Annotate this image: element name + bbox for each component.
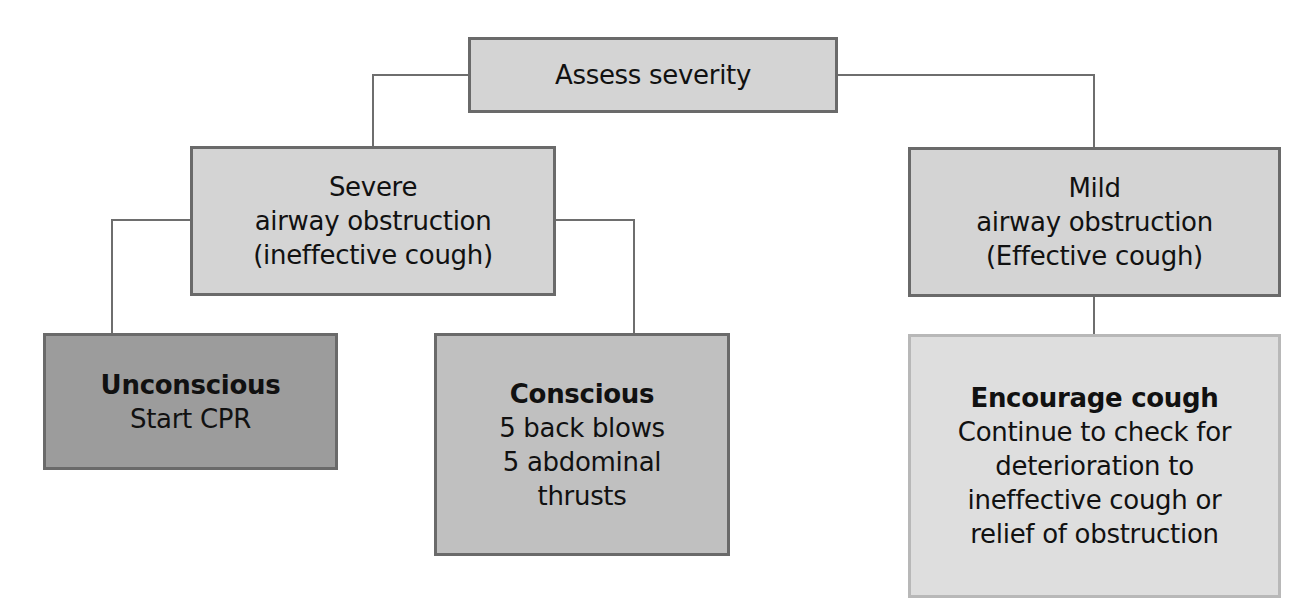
node-encourage-line-4: relief of obstruction <box>970 517 1218 551</box>
node-conscious-title: Conscious <box>510 377 654 411</box>
connector-assess-severe-v <box>372 74 374 148</box>
node-unconscious-title: Unconscious <box>101 368 281 402</box>
node-severe-title: Severe <box>329 170 417 204</box>
node-conscious: Conscious 5 back blows 5 abdominal thrus… <box>434 333 730 556</box>
connector-assess-mild-v <box>1093 74 1095 149</box>
node-severe-line-1: airway obstruction <box>255 204 492 238</box>
node-mild-obstruction: Mild airway obstruction (Effective cough… <box>908 147 1281 297</box>
node-severe-line-2: (ineffective cough) <box>253 238 493 272</box>
node-conscious-line-2: 5 abdominal <box>503 445 662 479</box>
connector-assess-severe-h <box>372 74 469 76</box>
node-encourage-line-1: Continue to check for <box>958 415 1231 449</box>
node-encourage-line-2: deterioration to <box>995 449 1194 483</box>
node-assess-text: Assess severity <box>555 58 751 92</box>
connector-assess-mild-h <box>837 74 1095 76</box>
node-unconscious-line-1: Start CPR <box>130 402 251 436</box>
node-mild-title: Mild <box>1068 171 1120 205</box>
connector-mild-encourage-v <box>1093 295 1095 335</box>
node-severe-obstruction: Severe airway obstruction (ineffective c… <box>190 146 556 296</box>
connector-severe-unconscious-h <box>111 219 192 221</box>
node-unconscious: Unconscious Start CPR <box>43 333 338 470</box>
node-conscious-line-3: thrusts <box>537 479 626 513</box>
node-encourage-line-3: ineffective cough or <box>968 483 1222 517</box>
node-assess-severity: Assess severity <box>468 37 838 113</box>
connector-severe-conscious-h <box>554 219 635 221</box>
node-encourage-title: Encourage cough <box>970 381 1218 415</box>
connector-severe-unconscious-v <box>111 219 113 334</box>
node-conscious-line-1: 5 back blows <box>499 411 665 445</box>
node-mild-line-1: airway obstruction <box>976 205 1213 239</box>
node-mild-line-2: (Effective cough) <box>986 239 1203 273</box>
node-encourage-cough: Encourage cough Continue to check for de… <box>908 334 1281 598</box>
connector-severe-conscious-v <box>633 219 635 334</box>
